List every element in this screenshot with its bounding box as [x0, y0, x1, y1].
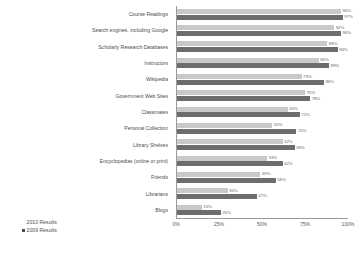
category-label: Classmates — [0, 104, 172, 120]
bar-value-label: 62% — [283, 161, 293, 166]
bar-group: 96%97% — [176, 6, 348, 22]
category-label: Government Web Sites — [0, 88, 172, 104]
bar-group: 53%62% — [176, 153, 348, 169]
bar-slot: 65% — [176, 107, 348, 112]
bar-2009 — [176, 210, 221, 215]
bar-value-label: 49% — [260, 172, 270, 177]
category-label: Wikipedia — [0, 71, 172, 87]
bar-2010 — [176, 156, 267, 161]
bar-value-label: 83% — [319, 58, 329, 63]
bar-value-label: 15% — [202, 204, 212, 209]
x-tick-label: 100% — [342, 221, 355, 228]
bar-slot: 72% — [176, 112, 348, 117]
category-label: Friends — [0, 169, 172, 185]
x-tick-label: 50% — [257, 221, 267, 228]
bar-2009 — [176, 194, 257, 199]
bar-group: 56%70% — [176, 120, 348, 136]
category-label: Personal Collection — [0, 120, 172, 136]
bar-group: 83%89% — [176, 55, 348, 71]
bar-slot: 94% — [176, 47, 348, 52]
bar-slot: 15% — [176, 205, 348, 210]
bar-2010 — [176, 205, 202, 210]
y-axis-line — [176, 6, 177, 218]
x-tick-label: 25% — [214, 221, 224, 228]
bar-value-label: 88% — [327, 41, 337, 46]
x-axis-line — [176, 218, 348, 219]
legend-label: 2010 Results — [27, 219, 57, 226]
bar-2009 — [176, 161, 283, 166]
bar-group: 62%69% — [176, 137, 348, 153]
bar-slot: 53% — [176, 156, 348, 161]
bar-value-label: 75% — [305, 90, 315, 95]
bar-value-label: 30% — [228, 188, 238, 193]
bar-value-label: 92% — [334, 25, 344, 30]
bar-slot: 75% — [176, 90, 348, 95]
bar-2009 — [176, 15, 343, 20]
bar-group: 92%96% — [176, 22, 348, 38]
legend-label: 2009 Results — [27, 227, 57, 234]
bar-value-label: 96% — [341, 31, 351, 36]
bar-slot: 70% — [176, 129, 348, 134]
bar-value-label: 97% — [343, 14, 353, 19]
bar-slot: 49% — [176, 172, 348, 177]
category-label: Scholarly Research Databases — [0, 39, 172, 55]
bar-slot: 89% — [176, 63, 348, 68]
bar-value-label: 73% — [302, 74, 312, 79]
bar-2010 — [176, 74, 302, 79]
bar-slot: 56% — [176, 123, 348, 128]
bar-slot: 47% — [176, 194, 348, 199]
bar-slot: 78% — [176, 96, 348, 101]
bar-value-label: 56% — [272, 123, 282, 128]
category-label: Blogs — [0, 202, 172, 218]
bar-2009 — [176, 129, 296, 134]
bar-value-label: 78% — [310, 96, 320, 101]
bar-slot: 96% — [176, 31, 348, 36]
bar-slot: 92% — [176, 25, 348, 30]
plot-area: 96%97%92%96%88%94%83%89%73%86%75%78%65%7… — [176, 6, 348, 218]
bar-slot: 73% — [176, 74, 348, 79]
bar-slot: 62% — [176, 139, 348, 144]
bar-slot: 30% — [176, 188, 348, 193]
bar-slot: 86% — [176, 80, 348, 85]
x-axis-tick-labels: 0%25%50%75%100% — [176, 221, 348, 231]
bar-2010 — [176, 25, 334, 30]
bar-group: 15%26% — [176, 202, 348, 218]
category-label: Library Shelves — [0, 137, 172, 153]
legend-item: 2009 Results — [22, 227, 57, 234]
bar-2010 — [176, 90, 305, 95]
bar-value-label: 62% — [283, 139, 293, 144]
bar-2010 — [176, 188, 228, 193]
legend-swatch-icon — [22, 221, 25, 224]
bar-slot: 96% — [176, 9, 348, 14]
legend-item: 2010 Results — [22, 219, 57, 226]
bar-2010 — [176, 58, 319, 63]
bar-2009 — [176, 178, 276, 183]
bar-slot: 58% — [176, 178, 348, 183]
bar-value-label: 26% — [221, 210, 231, 215]
bar-2010 — [176, 107, 288, 112]
legend-swatch-icon — [22, 229, 25, 232]
bar-2009 — [176, 80, 324, 85]
bar-value-label: 69% — [295, 145, 305, 150]
bar-group: 75%78% — [176, 88, 348, 104]
bar-value-label: 96% — [341, 9, 351, 14]
bar-2010 — [176, 123, 272, 128]
bar-slot: 97% — [176, 15, 348, 20]
bar-group: 30%47% — [176, 185, 348, 201]
bar-group: 49%58% — [176, 169, 348, 185]
bar-2009 — [176, 96, 310, 101]
category-label: Encyclopedias (online or print) — [0, 153, 172, 169]
bar-value-label: 65% — [288, 107, 298, 112]
bar-2010 — [176, 9, 341, 14]
category-axis-labels: Course ReadingsSearch engines, including… — [0, 6, 172, 218]
bar-2009 — [176, 112, 300, 117]
bar-value-label: 47% — [257, 194, 267, 199]
bar-2009 — [176, 31, 341, 36]
bar-2009 — [176, 63, 329, 68]
bar-2010 — [176, 172, 260, 177]
category-label: Course Readings — [0, 6, 172, 22]
bar-value-label: 53% — [267, 155, 277, 160]
bar-2009 — [176, 145, 295, 150]
bar-group: 65%72% — [176, 104, 348, 120]
x-tick-label: 0% — [172, 221, 179, 228]
